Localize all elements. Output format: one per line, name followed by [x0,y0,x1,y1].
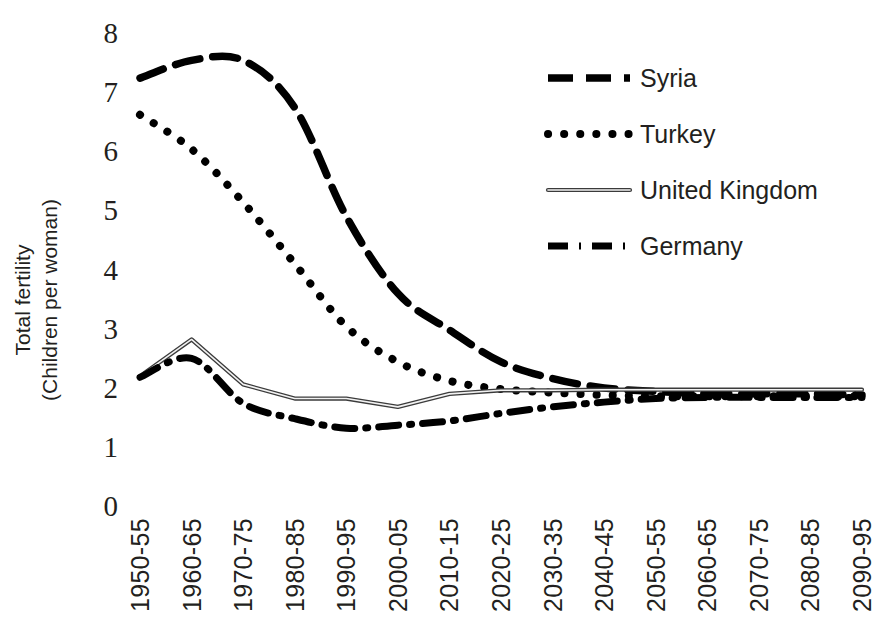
chart-canvas: 012345678 Total fertility (Children per … [0,0,886,639]
legend-label: United Kingdom [640,176,818,204]
y-tick-label: 0 [104,490,119,522]
legend-label: Turkey [640,120,716,148]
y-tick-label: 5 [104,194,119,226]
x-tick-label: 2030-35 [539,518,567,612]
fertility-line-chart: 012345678 Total fertility (Children per … [0,0,886,639]
series-lines-layer [140,56,862,428]
y-tick-label: 8 [104,17,119,49]
chart-legend: SyriaTurkeyUnited KingdomGermany [548,64,818,260]
legend-item-syria[interactable]: Syria [548,64,697,92]
legend-item-united-kingdom[interactable]: United Kingdom [548,176,818,204]
y-axis-title-line1: Total fertility [11,244,34,355]
series-line [140,56,862,395]
x-tick-label: 2080-85 [796,518,824,612]
y-tick-label: 2 [104,372,119,404]
x-tick-label: 1960-65 [178,518,206,612]
legend-item-turkey[interactable]: Turkey [548,120,716,148]
x-axis-tick-labels: 1950-551960-651970-751980-851990-952000-… [126,518,876,612]
x-tick-label: 1950-55 [126,518,154,612]
y-tick-label: 3 [104,313,119,345]
series-turkey [140,115,862,397]
series-syria [140,56,862,395]
y-tick-label: 7 [104,76,119,108]
x-tick-label: 2020-25 [487,518,515,612]
legend-item-germany[interactable]: Germany [548,232,743,260]
x-tick-label: 2040-45 [590,518,618,612]
x-tick-label: 2000-05 [384,518,412,612]
x-tick-label: 1980-85 [281,518,309,612]
x-tick-label: 2070-75 [745,518,773,612]
x-tick-label: 2090-95 [848,518,876,612]
y-tick-label: 4 [104,254,119,286]
y-tick-label: 1 [104,431,119,463]
x-tick-label: 1970-75 [229,518,257,612]
x-tick-label: 2010-15 [435,518,463,612]
y-axis-tick-labels: 012345678 [104,17,119,522]
y-axis-title: Total fertility (Children per woman) [11,199,61,401]
series-line [140,115,862,397]
legend-label: Syria [640,64,697,92]
x-tick-label: 2060-65 [693,518,721,612]
x-tick-label: 1990-95 [332,518,360,612]
x-tick-label: 2050-55 [642,518,670,612]
legend-label: Germany [640,232,743,260]
y-axis-title-line2: (Children per woman) [38,199,61,401]
y-tick-label: 6 [104,135,119,167]
